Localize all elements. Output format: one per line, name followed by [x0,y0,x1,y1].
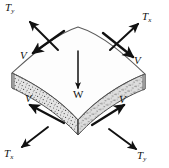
label-v-upper-left: V [20,50,27,61]
label-tx-lower-left: Tx [4,148,13,159]
label-text: V [20,49,27,61]
label-ty-lower-right: Ty [137,150,146,161]
label-ty-upper-left: Ty [5,2,14,13]
vector-ty-lower-right [109,129,136,149]
left-edge-cap [12,73,14,89]
diagram-canvas [0,0,169,168]
label-text: V [119,93,126,105]
label-subscript: y [143,155,146,163]
label-v-front-right: V [119,94,126,105]
label-text: W [73,88,83,100]
label-weight: W [73,89,83,100]
vector-tx-lower-left [22,127,48,147]
label-text: V [134,54,141,66]
label-v-upper-right: V [134,55,141,66]
force-diagram-figure: Ty Tx V V W V V Tx Ty [0,0,169,168]
label-tx-upper-right: Tx [142,11,151,22]
label-subscript: x [10,153,13,161]
label-subscript: x [148,16,151,24]
vector-tx-upper-right [110,24,138,50]
right-edge-cap [143,74,145,90]
label-text: V [25,92,32,104]
label-subscript: y [11,7,14,15]
label-v-front-left: V [25,93,32,104]
